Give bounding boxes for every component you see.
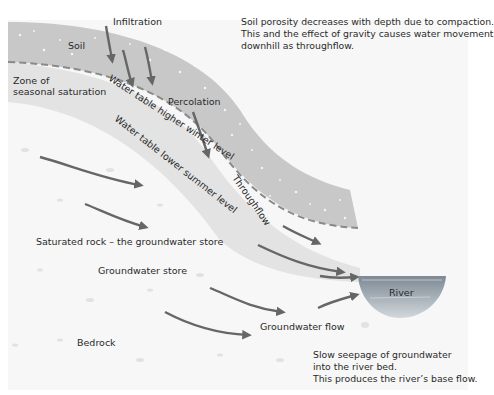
zone-label-line2: seasonal saturation [13, 86, 106, 97]
porosity-note-line1: Soil porosity decreases with depth due t… [241, 16, 494, 28]
porosity-note: Soil porosity decreases with depth due t… [241, 16, 494, 52]
saturated-rock-label: Saturated rock – the groundwater store [36, 236, 223, 247]
river-label: River [389, 287, 414, 298]
seepage-note-line3: This produces the river’s base flow. [313, 373, 477, 385]
groundwater-store-label: Groundwater store [98, 265, 187, 276]
soil-label: Soil [68, 40, 85, 51]
bedrock-label: Bedrock [77, 337, 116, 348]
porosity-note-line2: This and the effect of gravity causes wa… [241, 28, 494, 40]
infiltration-label: Infiltration [113, 16, 162, 27]
seepage-note: Slow seepage of groundwater into the riv… [313, 349, 477, 385]
zone-label-line1: Zone of [13, 75, 49, 86]
groundwater-flow-label: Groundwater flow [260, 321, 345, 332]
porosity-note-line3: downhill as throughflow. [241, 40, 494, 52]
percolation-label: Percolation [168, 96, 221, 107]
seepage-note-line2: into the river bed. [313, 361, 477, 373]
seepage-note-line1: Slow seepage of groundwater [313, 349, 477, 361]
